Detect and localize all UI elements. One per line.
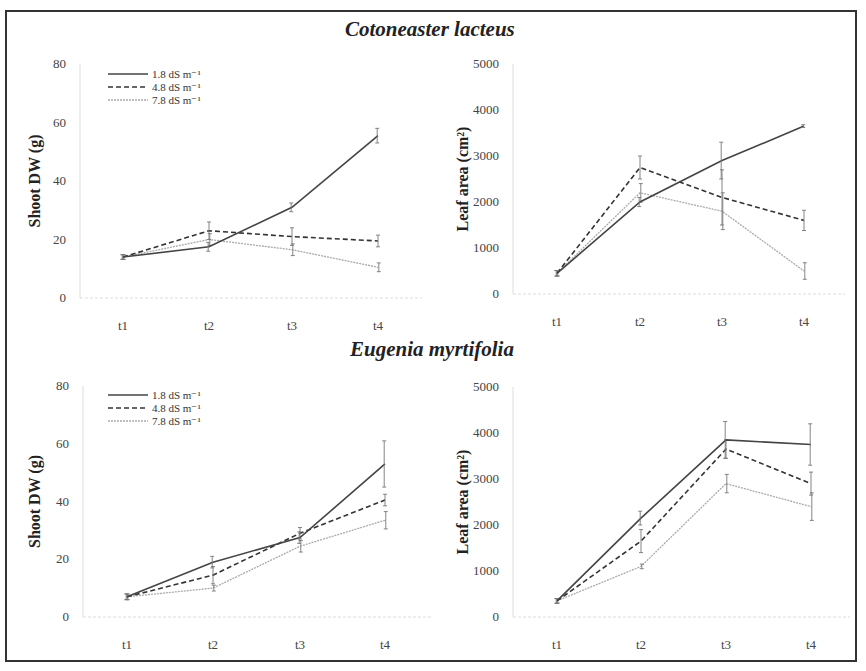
- x-tick-label: t1: [552, 314, 562, 329]
- y-tick-label: 40: [53, 173, 66, 188]
- chart-cotoneaster-shoot-dw: 020406080t1t2t3t4Shoot DW (g)1.8 dS m⁻¹4…: [26, 56, 422, 333]
- y-tick-label: 40: [56, 494, 69, 509]
- y-tick-label: 3000: [473, 148, 499, 163]
- x-tick-label: t2: [635, 314, 645, 329]
- x-tick-label: t4: [806, 637, 817, 652]
- y-axis-label: Shoot DW (g): [26, 455, 44, 548]
- chart-eugenia-shoot-dw: 020406080t1t2t3t4Shoot DW (g)1.8 dS m⁻¹4…: [26, 378, 433, 652]
- y-axis-label: Shoot DW (g): [26, 134, 44, 227]
- y-tick-label: 80: [53, 56, 66, 71]
- y-tick-label: 3000: [473, 471, 499, 486]
- y-tick-label: 2000: [473, 517, 499, 532]
- y-axis-label: Leaf area (cm²): [454, 450, 472, 555]
- legend: 1.8 dS m⁻¹4.8 dS m⁻¹7.8 dS m⁻¹: [108, 68, 201, 106]
- x-tick-label: t1: [552, 637, 562, 652]
- series-line-dotted: [557, 484, 811, 601]
- x-tick-label: t3: [287, 318, 297, 333]
- x-tick-label: t2: [204, 318, 214, 333]
- x-tick-label: t3: [717, 314, 727, 329]
- y-tick-label: 80: [56, 378, 69, 393]
- legend-label: 7.8 dS m⁻¹: [152, 94, 201, 106]
- y-tick-label: 0: [60, 290, 67, 305]
- y-tick-label: 1000: [473, 240, 499, 255]
- x-tick-label: t1: [118, 318, 128, 333]
- y-tick-label: 20: [56, 551, 69, 566]
- series-line-solid: [557, 440, 811, 601]
- chart-cotoneaster-leaf-area: 010002000300040005000t1t2t3t4Leaf area (…: [454, 56, 845, 329]
- legend: 1.8 dS m⁻¹4.8 dS m⁻¹7.8 dS m⁻¹: [108, 389, 201, 427]
- series-line-dotted: [123, 240, 378, 268]
- series-line-dashed: [557, 168, 804, 274]
- x-tick-label: t2: [208, 637, 218, 652]
- chart-eugenia-leaf-area: 010002000300040005000t1t2t3t4Leaf area (…: [454, 379, 850, 652]
- y-tick-label: 20: [53, 232, 66, 247]
- legend-label: 4.8 dS m⁻¹: [152, 402, 201, 414]
- y-tick-label: 60: [53, 115, 66, 130]
- y-tick-label: 0: [493, 286, 500, 301]
- legend-label: 4.8 dS m⁻¹: [152, 81, 201, 93]
- legend-label: 7.8 dS m⁻¹: [152, 415, 201, 427]
- series-line-solid: [127, 464, 385, 597]
- y-tick-label: 4000: [473, 425, 499, 440]
- x-tick-label: t3: [721, 637, 731, 652]
- y-tick-label: 5000: [473, 56, 499, 71]
- plots-canvas: 020406080t1t2t3t4Shoot DW (g)1.8 dS m⁻¹4…: [0, 0, 866, 671]
- series-line-dotted: [557, 193, 804, 273]
- y-tick-label: 0: [63, 609, 70, 624]
- y-tick-label: 60: [56, 436, 69, 451]
- x-tick-label: t4: [380, 637, 391, 652]
- y-tick-label: 4000: [473, 102, 499, 117]
- x-tick-label: t4: [373, 318, 384, 333]
- x-tick-label: t3: [295, 637, 305, 652]
- x-tick-label: t1: [122, 637, 132, 652]
- y-tick-label: 2000: [473, 194, 499, 209]
- series-line-solid: [557, 126, 804, 273]
- y-axis-label: Leaf area (cm²): [454, 127, 472, 232]
- series-line-dashed: [127, 500, 385, 597]
- legend-label: 1.8 dS m⁻¹: [152, 389, 201, 401]
- y-tick-label: 1000: [473, 563, 499, 578]
- legend-label: 1.8 dS m⁻¹: [152, 68, 201, 80]
- y-tick-label: 5000: [473, 379, 499, 394]
- x-tick-label: t4: [799, 314, 810, 329]
- y-tick-label: 0: [493, 609, 500, 624]
- x-tick-label: t2: [636, 637, 646, 652]
- series-line-dotted: [127, 520, 385, 597]
